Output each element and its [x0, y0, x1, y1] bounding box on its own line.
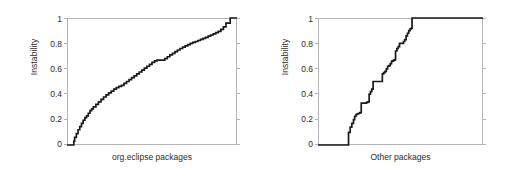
x-axis-label-right: Other packages [318, 152, 483, 162]
instability-curve-left [67, 18, 237, 145]
instability-cdf-figure: Instability 1 0.8 0.6 0.4 0.2 0 org.ecli… [0, 0, 509, 174]
curve-svg-left [0, 0, 255, 174]
x-axis-label-left: org.eclipse packages [67, 152, 237, 162]
chart-panel-org-eclipse: Instability 1 0.8 0.6 0.4 0.2 0 org.ecli… [0, 0, 255, 174]
instability-curve-right [318, 18, 483, 145]
curve-svg-right [255, 0, 509, 174]
chart-panel-other-packages: Instability 1 0.8 0.6 0.4 0.2 0 Other pa… [255, 0, 509, 174]
